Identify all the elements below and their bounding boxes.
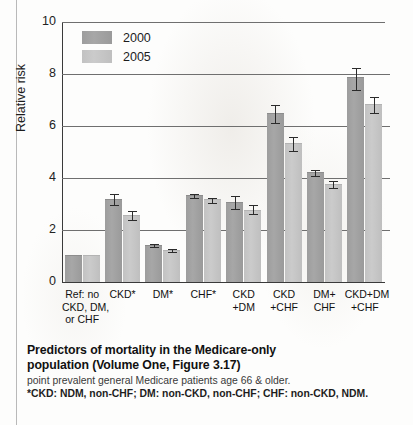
gridline-4 [62,178,385,179]
error-bar-cap-upper [271,105,280,106]
x-axis-label-line: CKD [264,288,304,301]
chart-legend: 2000 2005 [82,28,151,66]
x-axis-label-line: CKD+DM [345,288,385,301]
bar-2005 [244,210,261,283]
error-bar-cap-upper [128,211,137,212]
error-bar-cap-lower [289,151,298,152]
error-bar-cap-upper [150,244,159,245]
y-tick-label-6: 6 [30,119,56,132]
error-bar-cap-upper [168,249,177,250]
y-axis-title: Relative risk [14,12,28,132]
error-bar-stem [132,211,133,220]
caption-title: Predictors of mortality in the Medicare-… [27,343,402,372]
error-bar-stem [374,97,375,113]
x-axis-label-line: CHF* [183,288,223,301]
y-tick-mark-8 [385,74,390,75]
error-bar-cap-upper [231,196,240,197]
bar-2005 [163,250,180,282]
error-bar-cap-lower [249,214,258,215]
x-axis-label: CKD+DM [224,288,264,313]
x-axis-label: DM+CHF [304,288,344,313]
error-bar-stem [235,196,236,208]
chart-plot-area: Relative risk 0246810 2000 2005 Ref: noC… [0,0,413,333]
error-bar-stem [253,205,254,214]
legend-label-2000: 2000 [123,31,151,45]
x-axis-label: CHF* [183,288,223,301]
bar-2000 [105,199,122,282]
error-bar-cap-lower [311,176,320,177]
y-tick-mark-6 [385,126,390,127]
legend-label-2005: 2005 [123,50,151,64]
legend-item-2005: 2005 [82,47,151,66]
y-tick-mark-4 [385,178,390,179]
legend-swatch-2000 [82,31,112,44]
bar-2005 [325,184,342,283]
x-axis-label: DM* [143,288,183,301]
caption-footnote: *CKD: NDM, non-CHF; DM: non-CKD, non-CHF… [27,387,402,400]
bar-2000 [347,77,364,282]
error-bar-cap-upper [289,137,298,138]
error-bar-stem [275,105,276,124]
bar-2000 [186,195,203,282]
error-bar-cap-upper [249,205,258,206]
error-bar-cap-lower [329,188,338,189]
error-bar-cap-upper [190,194,199,195]
error-bar-cap-lower [352,90,361,91]
error-bar-cap-upper [110,194,119,195]
bar-2005 [204,199,221,282]
error-bar-cap-lower [271,123,280,124]
bar-2000 [267,113,284,282]
y-tick-mark-2 [385,230,390,231]
y-tick-label-8: 8 [30,67,56,80]
bar-2005 [365,104,382,282]
caption-title-line: population (Volume One, Figure 3.17) [27,358,402,373]
error-bar-cap-lower [168,252,177,253]
x-axis-label: Ref: noCKD, DM,or CHF [62,288,102,326]
x-axis-label: CKD+DM+CHF [345,288,385,313]
x-axis-label-line: CKD [224,288,264,301]
x-axis-label-line: Ref: no [62,288,102,301]
bar-2005 [83,255,100,282]
error-bar-cap-lower [150,247,159,248]
bar-2005 [123,215,140,282]
legend-swatch-2005 [82,50,112,63]
error-bar-cap-lower [208,203,217,204]
x-axis-label-line: +CHF [264,301,304,314]
error-bar-cap-lower [128,220,137,221]
error-bar-cap-lower [110,205,119,206]
bar-2000 [226,202,243,282]
x-axis-label: CKD+CHF [264,288,304,313]
x-axis-label-line: CKD* [102,288,142,301]
caption-subtitle: point prevalent general Medicare patient… [27,374,402,387]
figure-page: Relative risk 0246810 2000 2005 Ref: noC… [0,0,413,425]
error-bar-stem [333,181,334,188]
error-bar-cap-lower [370,113,379,114]
y-tick-label-0: 0 [30,275,56,288]
error-bar-cap-upper [311,170,320,171]
x-axis-label-line: +CHF [345,301,385,314]
caption-title-line: Predictors of mortality in the Medicare-… [27,343,402,358]
figure-caption: Predictors of mortality in the Medicare-… [27,343,402,400]
error-bar-cap-lower [190,198,199,199]
x-axis-label-line: or CHF [62,313,102,326]
bar-2000 [307,172,324,282]
bar-2000 [145,245,162,282]
error-bar-cap-upper [370,97,379,98]
x-axis-label-line: CHF [304,301,344,314]
y-tick-label-4: 4 [30,171,56,184]
error-bar-stem [293,137,294,152]
x-axis-labels: Ref: noCKD, DM,or CHFCKD*DM*CHF*CKD+DMCK… [62,288,385,332]
x-axis-label-line: +DM [224,301,264,314]
legend-item-2000: 2000 [82,28,151,47]
bar-2000 [65,255,82,282]
y-tick-label-2: 2 [30,223,56,236]
gridline-10 [62,22,385,23]
bar-2005 [285,143,302,282]
x-axis-label-line: DM* [143,288,183,301]
x-axis-label-line: CKD, DM, [62,301,102,314]
error-bar-stem [114,194,115,205]
error-bar-stem [356,68,357,89]
error-bar-cap-upper [208,198,217,199]
gridline-0 [62,282,385,283]
error-bar-cap-lower [231,209,240,210]
